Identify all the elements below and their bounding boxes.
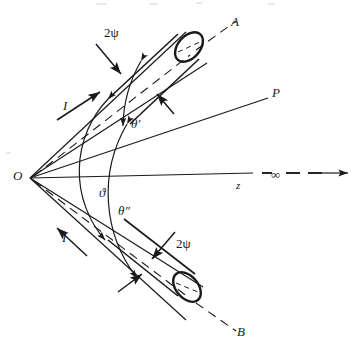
beam-b-cylinder-lower-side — [108, 240, 178, 296]
label-beam-a: A — [230, 14, 239, 29]
label-intensity-upper: I — [62, 98, 68, 113]
beam-b-upper-edge-ray — [30, 178, 203, 287]
beam-b-axis-extension-dashed — [196, 303, 236, 331]
label-intensity-lower: I — [61, 230, 67, 245]
label-angle-upper: θ′ — [131, 116, 140, 131]
callout-arrows-group — [57, 44, 175, 292]
label-point-p: P — [271, 85, 280, 100]
label-beam-b: B — [237, 324, 245, 339]
beam-a-center-axis-dashed — [34, 55, 190, 176]
label-aperture-lower: 2ψ — [176, 236, 191, 251]
label-angle-lower: θ″ — [118, 203, 130, 218]
z-axis-group — [30, 173, 348, 178]
beam-geometry-figure: O A B P z ∞ I I 2ψ 2ψ ϑ θ′ θ″ — [0, 0, 361, 356]
beam-a-group — [30, 21, 236, 178]
beam-a-inner-callout-arrow — [157, 94, 174, 114]
angle-arcs-group — [79, 61, 141, 278]
beam-b-inner-callout-arrow — [118, 274, 142, 292]
label-origin: O — [13, 168, 23, 183]
z-axis-solid-line — [30, 173, 253, 178]
beam-a-upper-edge-ray — [30, 32, 186, 178]
beam-b-group — [30, 178, 236, 331]
aperture-upper-callout-arrow — [96, 44, 121, 74]
label-axis-z: z — [235, 179, 241, 191]
label-aperture-upper: 2ψ — [104, 25, 119, 40]
beam-a-lower-edge-ray — [30, 63, 207, 178]
label-infinity: ∞ — [271, 167, 280, 182]
beam-a-end-cap-center-dash — [178, 42, 200, 52]
label-angle-total: ϑ — [99, 185, 106, 200]
beam-b-center-axis-dashed — [34, 181, 188, 297]
